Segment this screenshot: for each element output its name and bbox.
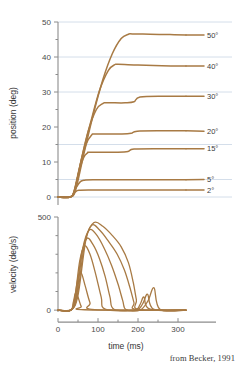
series-label-5deg: 5° — [207, 175, 214, 184]
figure-svg: 01020304050position (deg)2°5°15°20°30°40… — [0, 0, 241, 369]
position-y-tick-label: 20 — [42, 123, 51, 132]
position-y-tick-label: 40 — [42, 53, 51, 62]
position-y-tick-label: 10 — [42, 158, 51, 167]
velocity-y-tick-label: 500 — [38, 213, 52, 222]
position-curve — [58, 190, 186, 197]
velocity-x-axis-title: time (ms) — [108, 341, 144, 351]
series-label-20deg: 20° — [207, 127, 218, 136]
series-label-50deg: 50° — [207, 31, 218, 40]
position-curve — [58, 131, 186, 198]
velocity-x-tick-label: 0 — [56, 325, 61, 334]
position-panel: 01020304050position (deg)2°5°15°20°30°40… — [8, 18, 232, 205]
velocity-x-tick-label: 200 — [131, 325, 145, 334]
series-label-15deg: 15° — [207, 144, 218, 153]
velocity-y-tick-label: 0 — [47, 306, 52, 315]
series-label-2deg: 2° — [207, 186, 214, 195]
saccade-figure: 01020304050position (deg)2°5°15°20°30°40… — [0, 0, 241, 369]
velocity-x-tick-label: 300 — [171, 325, 185, 334]
position-y-tick-label: 0 — [47, 193, 52, 202]
velocity-x-tick-label: 100 — [91, 325, 105, 334]
position-y-tick-label: 30 — [42, 88, 51, 97]
series-label-40deg: 40° — [207, 62, 218, 71]
velocity-axis-title: velocity (deg/s) — [8, 236, 18, 293]
figure-credit: from Becker, 1991 — [170, 353, 235, 363]
velocity-panel: 0500velocity (deg/s)0100200300time (ms) — [8, 213, 216, 351]
series-label-30deg: 30° — [207, 92, 218, 101]
position-curve — [58, 34, 186, 198]
position-axis-title: position (deg) — [8, 87, 18, 139]
position-y-tick-label: 50 — [42, 18, 51, 27]
